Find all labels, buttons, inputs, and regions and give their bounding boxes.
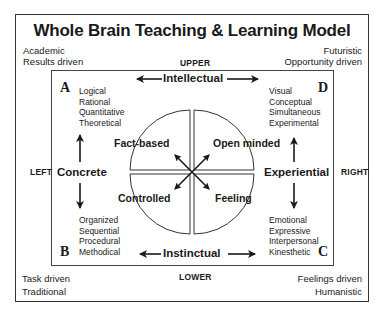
corner-label: Traditional: [22, 285, 70, 298]
trait-item: Quantitative: [79, 107, 124, 118]
corner-label: Humanistic: [298, 285, 362, 298]
corner-label: Academic: [23, 45, 83, 56]
trait-item: Procedural: [79, 236, 120, 247]
direction-left: LEFT: [30, 167, 52, 177]
axis-concrete: Concrete: [57, 166, 107, 178]
quadrant-c-traits: Emotional Expressive Interpersonal Kines…: [269, 215, 319, 257]
trait-item: Visual: [269, 86, 321, 97]
trait-item: Simultaneous: [269, 107, 321, 118]
quadrant-letter-a: A: [60, 80, 70, 96]
trait-item: Experimental: [269, 118, 321, 129]
corner-label: Task driven: [22, 272, 70, 285]
corner-top-right: Futuristic Opportunity driven: [284, 45, 362, 67]
direction-upper: UPPER: [180, 58, 210, 68]
axis-instinctual: Instinctual: [163, 247, 221, 259]
direction-lower: LOWER: [179, 272, 212, 282]
corner-top-left: Academic Results driven: [23, 45, 83, 67]
trait-item: Expressive: [269, 226, 319, 237]
arrow-up-right-icon: [192, 155, 209, 172]
corner-label: Feelings driven: [298, 272, 362, 285]
trait-item: Emotional: [269, 215, 319, 226]
direction-right: RIGHT: [341, 167, 368, 177]
arrow-down-right-icon: [192, 172, 209, 189]
quadrant-d-traits: Visual Conceptual Simultaneous Experimen…: [269, 86, 321, 128]
trait-item: Theoretical: [79, 118, 124, 129]
corner-bottom-right: Feelings driven Humanistic: [298, 272, 362, 298]
corner-label: Opportunity driven: [284, 56, 362, 67]
diagram-title: Whole Brain Teaching & Learning Model: [0, 21, 384, 41]
arrow-up-left-icon: [175, 155, 192, 172]
arrow-down-left-icon: [175, 172, 192, 189]
axis-intellectual: Intellectual: [163, 72, 223, 84]
trait-item: Conceptual: [269, 97, 321, 108]
sector-controlled: Controlled: [118, 192, 171, 204]
trait-item: Kinesthetic: [269, 247, 319, 258]
trait-item: Interpersonal: [269, 236, 319, 247]
quadrant-letter-b: B: [60, 244, 69, 260]
axis-experiential: Experiential: [264, 166, 329, 178]
trait-item: Organized: [79, 215, 120, 226]
quadrant-b-traits: Organized Sequential Procedural Methodic…: [79, 215, 120, 257]
trait-item: Methodical: [79, 247, 120, 258]
corner-label: Futuristic: [284, 45, 362, 56]
corner-bottom-left: Task driven Traditional: [22, 272, 70, 298]
trait-item: Rational: [79, 97, 124, 108]
sector-open-minded: Open minded: [213, 137, 280, 149]
trait-item: Sequential: [79, 226, 120, 237]
trait-item: Logical: [79, 86, 124, 97]
diagonal-arrows: [175, 155, 209, 189]
quadrant-a-traits: Logical Rational Quantitative Theoretica…: [79, 86, 124, 128]
sector-fact-based: Fact-based: [114, 137, 169, 149]
sector-feeling: Feeling: [215, 192, 252, 204]
corner-label: Results driven: [23, 56, 83, 67]
quadrant-letter-c: C: [318, 244, 328, 260]
